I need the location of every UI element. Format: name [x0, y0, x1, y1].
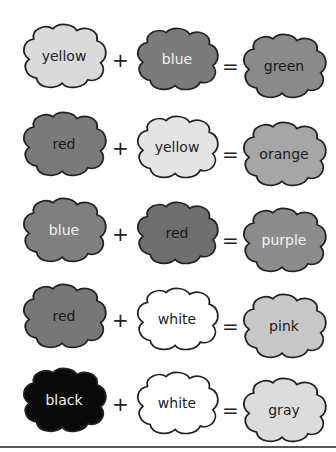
result-blob-pink: pink — [240, 292, 328, 360]
blob-label: orange — [240, 120, 328, 188]
blob-label: red — [20, 282, 108, 350]
blob-label: white — [134, 370, 220, 436]
paint-blob-red: red — [20, 282, 108, 350]
blob-label: red — [20, 110, 108, 178]
plus-sign: + — [112, 308, 129, 332]
blob-label: black — [20, 366, 108, 434]
plus-sign: + — [112, 222, 129, 246]
result-blob-green: green — [240, 32, 328, 100]
blob-label: yellow — [20, 22, 108, 90]
equation-row: blackwhitegray+= — [0, 366, 336, 446]
paint-blob-yellow: yellow — [134, 114, 220, 180]
equation-row: blueredpurple+= — [0, 196, 336, 276]
paint-blob-blue: blue — [20, 196, 108, 264]
equation-row: redwhitepink+= — [0, 282, 336, 362]
blob-label: gray — [240, 376, 328, 444]
bottom-divider — [0, 446, 336, 448]
paint-blob-red: red — [134, 200, 220, 266]
equals-sign: = — [222, 398, 239, 422]
blob-label: purple — [240, 206, 328, 274]
equals-sign: = — [222, 228, 239, 252]
paint-blob-blue: blue — [134, 26, 220, 92]
paint-blob-white: white — [134, 286, 220, 352]
blob-label: green — [240, 32, 328, 100]
blob-label: blue — [20, 196, 108, 264]
equals-sign: = — [222, 314, 239, 338]
paint-blob-black: black — [20, 366, 108, 434]
paint-blob-yellow: yellow — [20, 22, 108, 90]
plus-sign: + — [112, 136, 129, 160]
blob-label: red — [134, 200, 220, 266]
blob-label: blue — [134, 26, 220, 92]
equation-row: redyelloworange+= — [0, 110, 336, 190]
result-blob-orange: orange — [240, 120, 328, 188]
equation-row: yellowbluegreen+= — [0, 22, 336, 102]
equals-sign: = — [222, 54, 239, 78]
paint-blob-white: white — [134, 370, 220, 436]
blob-label: yellow — [134, 114, 220, 180]
result-blob-gray: gray — [240, 376, 328, 444]
blob-label: pink — [240, 292, 328, 360]
plus-sign: + — [112, 48, 129, 72]
equals-sign: = — [222, 142, 239, 166]
paint-blob-red: red — [20, 110, 108, 178]
result-blob-purple: purple — [240, 206, 328, 274]
blob-label: white — [134, 286, 220, 352]
plus-sign: + — [112, 392, 129, 416]
